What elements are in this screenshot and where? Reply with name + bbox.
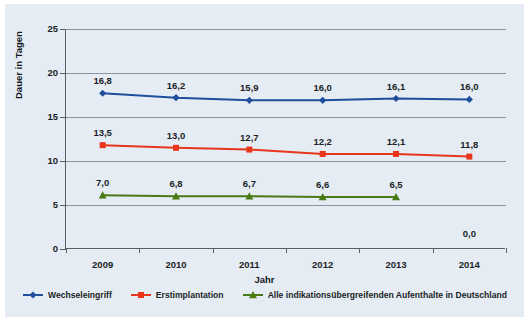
data-point-marker bbox=[100, 142, 106, 148]
chart-figure: Dauer in Tagen 0510152025 20092010201120… bbox=[5, 4, 524, 317]
legend-item[interactable]: Erstimplantation bbox=[130, 290, 224, 300]
data-point-label: 11,8 bbox=[446, 140, 492, 150]
data-point-label: 16,0 bbox=[300, 83, 346, 93]
data-point-marker bbox=[246, 97, 253, 104]
chart-annotation: 0,0 bbox=[446, 229, 492, 239]
data-point-label: 6,8 bbox=[153, 179, 199, 189]
data-point-marker bbox=[172, 94, 179, 101]
y-tick-label: 20 bbox=[32, 68, 58, 78]
x-tick-mark bbox=[506, 248, 507, 253]
series-layer bbox=[66, 29, 506, 249]
chart-legend: WechseleingriffErstimplantationAlle indi… bbox=[5, 290, 524, 300]
data-point-marker bbox=[99, 90, 106, 97]
y-tick-label: 25 bbox=[32, 24, 58, 34]
data-point-label: 16,2 bbox=[153, 81, 199, 91]
data-point-marker bbox=[319, 97, 326, 104]
legend-marker-triangle-icon bbox=[242, 290, 264, 300]
data-point-marker bbox=[393, 151, 399, 157]
data-point-marker bbox=[29, 291, 36, 298]
data-point-label: 16,8 bbox=[80, 76, 126, 86]
x-tick-label: 2009 bbox=[73, 260, 133, 270]
x-tick-label: 2012 bbox=[293, 260, 353, 270]
x-tick-label: 2011 bbox=[219, 260, 279, 270]
data-point-label: 6,5 bbox=[373, 180, 419, 190]
data-point-marker bbox=[173, 145, 179, 151]
legend-marker-diamond-icon bbox=[22, 290, 44, 300]
data-point-marker bbox=[138, 292, 144, 298]
legend-marker-square-icon bbox=[130, 290, 152, 300]
data-point-marker bbox=[246, 147, 252, 153]
series-line bbox=[103, 145, 470, 156]
data-point-label: 15,9 bbox=[226, 83, 272, 93]
y-tick-label: 0 bbox=[32, 244, 58, 254]
data-point-marker bbox=[466, 96, 473, 103]
data-point-label: 12,2 bbox=[300, 137, 346, 147]
data-point-marker bbox=[466, 154, 472, 160]
y-tick-label: 10 bbox=[32, 156, 58, 166]
plot-area: 0510152025 200920102011201220132014 16,8… bbox=[65, 29, 505, 249]
legend-label: Wechseleingriff bbox=[48, 290, 112, 300]
data-point-label: 16,1 bbox=[373, 82, 419, 92]
data-point-label: 6,6 bbox=[300, 180, 346, 190]
data-point-marker bbox=[320, 151, 326, 157]
data-point-label: 6,7 bbox=[226, 179, 272, 189]
data-point-label: 12,1 bbox=[373, 137, 419, 147]
data-point-label: 7,0 bbox=[80, 178, 126, 188]
x-axis-title: Jahr bbox=[5, 274, 524, 285]
legend-item[interactable]: Wechseleingriff bbox=[22, 290, 112, 300]
data-point-label: 13,5 bbox=[80, 128, 126, 138]
x-tick-label: 2014 bbox=[439, 260, 499, 270]
y-axis-title: Dauer in Tagen bbox=[13, 31, 24, 99]
y-tick-label: 15 bbox=[32, 112, 58, 122]
data-point-label: 16,0 bbox=[446, 82, 492, 92]
data-point-marker bbox=[392, 95, 399, 102]
legend-label: Erstimplantation bbox=[156, 290, 224, 300]
x-tick-label: 2010 bbox=[146, 260, 206, 270]
legend-label: Alle indikationsübergreifenden Aufenthal… bbox=[268, 290, 507, 300]
legend-item[interactable]: Alle indikationsübergreifenden Aufenthal… bbox=[242, 290, 507, 300]
data-point-label: 12,7 bbox=[226, 133, 272, 143]
x-tick-label: 2013 bbox=[366, 260, 426, 270]
data-point-label: 13,0 bbox=[153, 131, 199, 141]
series-line bbox=[103, 93, 470, 100]
y-tick-label: 5 bbox=[32, 200, 58, 210]
